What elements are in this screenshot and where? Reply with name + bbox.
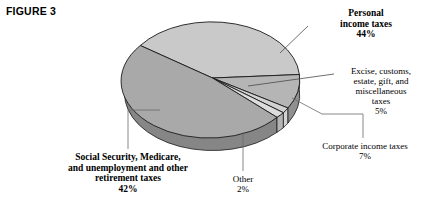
slice-label-personal-income-taxes: Personal income taxes 44% <box>310 8 422 40</box>
figure-panel: FIGURE 3 <box>0 0 427 210</box>
slice-label-social-security-medicare: Social Security, Medicare, and unemploym… <box>36 152 220 195</box>
slice-label-corporate-income-taxes: Corporate income taxes 7% <box>305 141 425 161</box>
slice-label-other: Other 2% <box>217 174 269 194</box>
leader-line-personal <box>280 26 308 53</box>
pie-chart: Personal income taxes 44% Excise, custom… <box>0 0 427 210</box>
slice-label-excise-customs-estate-gift: Excise, customs, estate, gift, and misce… <box>336 66 426 116</box>
